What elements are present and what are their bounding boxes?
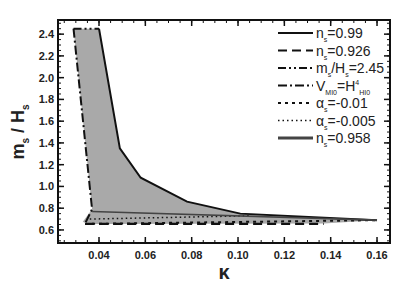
y-tick-label: 1.2 bbox=[39, 159, 54, 171]
legend-item: ms/Hs=2.45 bbox=[278, 60, 384, 78]
legend-item: ns=0.99 bbox=[278, 25, 363, 43]
x-tick-label: 0.06 bbox=[135, 249, 156, 261]
x-tick-label: 0.08 bbox=[181, 249, 202, 261]
y-axis-label: ms / Hs bbox=[8, 104, 31, 160]
y-tick-label: 1.8 bbox=[39, 93, 54, 105]
legend: ns=0.99ns=0.926ms/Hs=2.45VMI0=H4HI0αs=-0… bbox=[278, 25, 384, 148]
legend-label: αs=-0.005 bbox=[316, 113, 376, 131]
y-tick-label: 1.0 bbox=[39, 180, 54, 192]
legend-label: αs=-0.01 bbox=[316, 95, 368, 113]
legend-item: αs=-0.01 bbox=[278, 95, 368, 113]
y-tick-label: 1.4 bbox=[39, 137, 55, 149]
svg-text:ms / Hs: ms / Hs bbox=[8, 104, 31, 160]
x-tick-label: 0.10 bbox=[227, 249, 248, 261]
legend-item: αs=-0.005 bbox=[278, 113, 376, 131]
legend-item: VMI0=H4HI0 bbox=[278, 78, 370, 96]
y-tick-label: 2.2 bbox=[39, 50, 54, 62]
y-tick-label: 0.6 bbox=[39, 224, 54, 236]
x-tick-label: 0.14 bbox=[320, 249, 342, 261]
x-tick-label: 0.04 bbox=[88, 249, 110, 261]
legend-label: ns=0.926 bbox=[316, 43, 371, 61]
y-tick-label: 1.6 bbox=[39, 115, 54, 127]
legend-item: ns=0.958 bbox=[278, 130, 371, 148]
legend-label: ms/Hs=2.45 bbox=[316, 60, 384, 78]
x-axis-label: κ bbox=[218, 261, 230, 283]
x-tick-label: 0.16 bbox=[366, 249, 387, 261]
legend-label: ns=0.99 bbox=[316, 25, 363, 43]
chart: 0.040.060.080.100.120.140.16 0.60.81.01.… bbox=[0, 0, 403, 293]
y-tick-label: 2.4 bbox=[39, 28, 55, 40]
x-tick-label: 0.12 bbox=[274, 249, 295, 261]
y-tick-label: 2.0 bbox=[39, 72, 54, 84]
legend-label: ns=0.958 bbox=[316, 130, 371, 148]
legend-label: VMI0=H4HI0 bbox=[316, 78, 370, 96]
y-tick-label: 0.8 bbox=[39, 202, 54, 214]
legend-item: ns=0.926 bbox=[278, 43, 371, 61]
